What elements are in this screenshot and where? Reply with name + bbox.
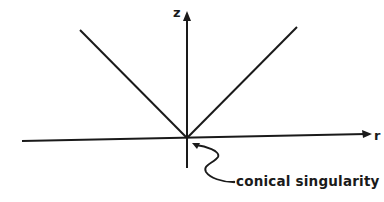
wavy-pointer-arrow bbox=[196, 145, 233, 182]
pointer-tail-dot bbox=[233, 181, 235, 183]
r-axis-label: r bbox=[374, 129, 380, 142]
cone-diagram bbox=[0, 0, 384, 202]
cone-left-line bbox=[80, 30, 187, 138]
r-axis bbox=[22, 134, 366, 141]
cone-right-line bbox=[187, 27, 297, 138]
z-axis-label: z bbox=[173, 6, 181, 19]
r-axis-arrowhead-icon bbox=[362, 130, 372, 138]
z-axis-arrowhead-icon bbox=[183, 11, 191, 21]
conical-singularity-label: conical singularity bbox=[236, 175, 380, 189]
